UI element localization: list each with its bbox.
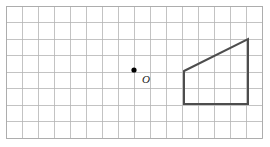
origin-point-dot <box>131 67 136 72</box>
figure-svg: O <box>0 0 270 147</box>
canvas-background <box>0 0 270 147</box>
figure-canvas: O <box>0 0 270 147</box>
origin-point-label: O <box>142 73 150 85</box>
